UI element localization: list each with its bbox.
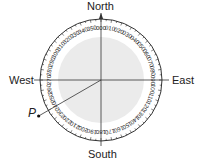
west-label: West [9,75,34,86]
compass-diagram: 0000100200300400500600700800901001101201… [0,0,198,162]
south-label: South [88,149,117,160]
north-arrow-icon [99,13,103,19]
point-p-label: P [28,107,36,119]
north-label: North [87,1,114,12]
east-label: East [172,75,194,86]
point-p-dot [37,114,40,117]
